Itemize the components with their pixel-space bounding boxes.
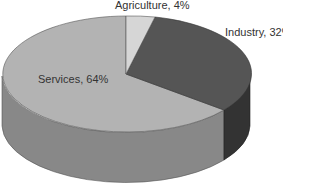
- label-services: Services, 64%: [38, 73, 108, 85]
- label-industry: Industry, 32%: [225, 26, 283, 38]
- label-agriculture: Agriculture, 4%: [115, 0, 190, 11]
